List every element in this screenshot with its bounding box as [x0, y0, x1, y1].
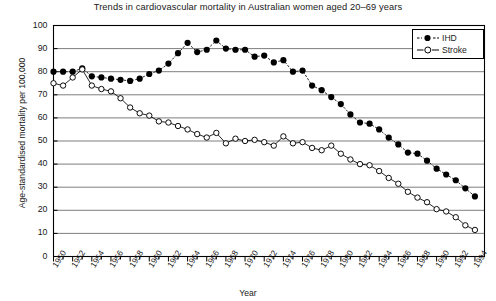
legend-item-stroke: Stroke: [416, 44, 483, 56]
y-tick-30: 30: [22, 181, 48, 191]
y-tick-0: 0: [22, 251, 48, 261]
chart-title: Trends in cardiovascular mortality in Au…: [0, 2, 496, 12]
legend-marker-filled-circle-icon: [416, 33, 440, 43]
chart-figure: Trends in cardiovascular mortality in Au…: [0, 0, 496, 301]
legend-label-ihd: IHD: [442, 33, 457, 43]
legend-item-ihd: IHD: [416, 32, 483, 44]
y-tick-10: 10: [22, 227, 48, 237]
y-tick-80: 80: [22, 66, 48, 76]
y-tick-90: 90: [22, 43, 48, 53]
y-tick-100: 100: [22, 20, 48, 30]
y-tick-50: 50: [22, 135, 48, 145]
data-series-layer: [50, 37, 478, 232]
y-tick-40: 40: [22, 158, 48, 168]
x-axis-label: Year: [0, 288, 496, 298]
y-tick-20: 20: [22, 204, 48, 214]
y-tick-60: 60: [22, 112, 48, 122]
chart-legend: IHD Stroke: [412, 29, 484, 59]
legend-marker-open-circle-icon: [416, 45, 440, 55]
legend-label-stroke: Stroke: [442, 45, 467, 55]
y-tick-70: 70: [22, 89, 48, 99]
